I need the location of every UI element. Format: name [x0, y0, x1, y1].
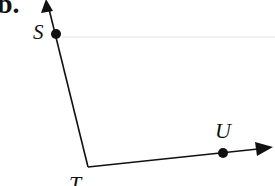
arrowhead-right-icon — [255, 142, 273, 156]
part-label: b. — [0, 0, 20, 18]
ray-tu — [88, 149, 258, 167]
point-s-label: S — [33, 22, 44, 43]
angle-diagram: b. S U T — [0, 0, 275, 186]
point-u-label: U — [215, 120, 231, 142]
point-t-label: T — [69, 173, 81, 186]
point-u-dot — [218, 148, 228, 158]
point-s-dot — [51, 29, 61, 39]
arrowhead-up-icon — [41, 0, 53, 13]
